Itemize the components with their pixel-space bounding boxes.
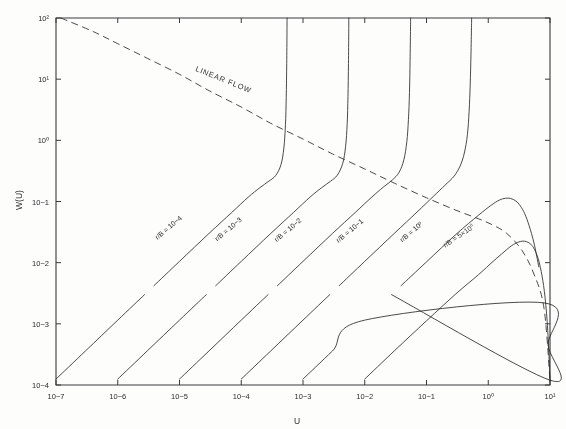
chart-background bbox=[0, 0, 566, 429]
y-tick-label: 10⁰ bbox=[38, 136, 49, 145]
x-tick-label: 10−3 bbox=[295, 392, 312, 401]
y-tick-label: 10² bbox=[38, 14, 49, 23]
x-tick-label: 10−5 bbox=[171, 392, 188, 401]
y-tick-label: 10−1 bbox=[32, 198, 49, 207]
x-tick-label: 10−7 bbox=[48, 392, 65, 401]
type-curve-chart: 10−710−610−510−410−310−210−110⁰10¹ 10²10… bbox=[0, 0, 566, 429]
x-tick-label: 10−6 bbox=[109, 392, 126, 401]
x-tick-label: 10−2 bbox=[356, 392, 373, 401]
y-tick-label: 10−3 bbox=[32, 320, 49, 329]
x-axis-title: U bbox=[294, 416, 300, 426]
x-tick-label: 10⁰ bbox=[483, 392, 494, 401]
y-axis-title: W(U) bbox=[14, 190, 24, 210]
x-tick-label: 10−1 bbox=[418, 392, 435, 401]
y-tick-label: 10−2 bbox=[32, 259, 49, 268]
x-tick-label: 10−4 bbox=[233, 392, 250, 401]
x-tick-label: 10¹ bbox=[545, 392, 556, 401]
y-tick-label: 10¹ bbox=[38, 75, 49, 84]
y-tick-label: 10−4 bbox=[32, 381, 49, 390]
